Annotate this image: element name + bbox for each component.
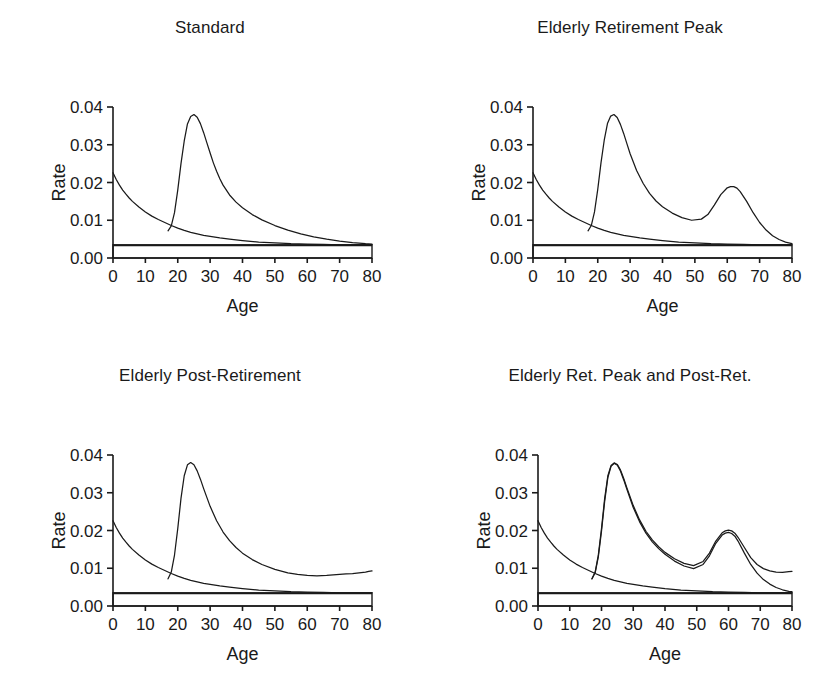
series-background-mortality-decay [113, 521, 372, 593]
x-tick-label: 60 [298, 267, 317, 286]
chart-panel-2: Elderly Retirement Peak0.000.010.020.030… [420, 18, 840, 348]
y-tick-label: 0.01 [490, 211, 523, 230]
y-axis-title: Rate [49, 163, 69, 201]
x-tick-label: 10 [136, 267, 155, 286]
chart-panel-3: Elderly Post-Retirement0.000.010.020.030… [0, 366, 420, 693]
y-tick-label: 0.00 [490, 249, 523, 268]
y-tick-label: 0.02 [70, 522, 103, 541]
panel-title: Elderly Retirement Peak [420, 18, 840, 38]
y-tick-label: 0.04 [70, 98, 103, 117]
panel-title: Elderly Post-Retirement [0, 366, 420, 386]
baseline-box [113, 593, 372, 606]
series-background-mortality-decay [538, 521, 792, 593]
x-tick-label: 40 [653, 267, 672, 286]
y-tick-label: 0.02 [495, 522, 528, 541]
x-tick-label: 20 [592, 615, 611, 634]
x-tick-label: 70 [330, 267, 349, 286]
series-background-mortality-decay [113, 173, 372, 245]
x-tick-label: 60 [718, 267, 737, 286]
y-tick-label: 0.00 [70, 597, 103, 616]
y-tick-label: 0.02 [490, 174, 523, 193]
y-tick-label: 0.04 [490, 98, 523, 117]
y-tick-label: 0.04 [495, 446, 528, 465]
y-axis-title: Rate [469, 163, 489, 201]
y-tick-label: 0.02 [70, 174, 103, 193]
x-tick-label: 50 [265, 267, 284, 286]
x-tick-label: 20 [588, 267, 607, 286]
x-tick-label: 80 [783, 267, 802, 286]
x-tick-label: 50 [265, 615, 284, 634]
series-young-adult-migration-peak [168, 115, 372, 244]
figure-panel-grid: Standard0.000.010.020.030.04010203040506… [0, 0, 840, 693]
y-tick-label: 0.01 [70, 211, 103, 230]
x-tick-label: 10 [560, 615, 579, 634]
baseline-box [538, 593, 792, 606]
x-tick-label: 30 [201, 615, 220, 634]
y-tick-label: 0.03 [70, 484, 103, 503]
x-tick-label: 30 [621, 267, 640, 286]
x-tick-label: 50 [685, 267, 704, 286]
panel-title: Standard [0, 18, 420, 38]
x-tick-label: 0 [108, 615, 117, 634]
plot-area: 0.000.010.020.030.0401020304050607080Age… [420, 366, 840, 693]
chart-panel-4: Elderly Ret. Peak and Post-Ret.0.000.010… [420, 366, 840, 693]
x-tick-label: 20 [168, 615, 187, 634]
plot-area: 0.000.010.020.030.0401020304050607080Age… [0, 366, 420, 693]
x-tick-label: 70 [751, 615, 770, 634]
y-tick-label: 0.04 [70, 446, 103, 465]
chart-panel-1: Standard0.000.010.020.030.04010203040506… [0, 18, 420, 348]
y-tick-label: 0.03 [70, 136, 103, 155]
y-tick-label: 0.01 [495, 559, 528, 578]
x-axis-title: Age [226, 644, 258, 664]
x-tick-label: 10 [556, 267, 575, 286]
x-tick-label: 70 [750, 267, 769, 286]
x-tick-label: 0 [108, 267, 117, 286]
y-tick-label: 0.00 [70, 249, 103, 268]
y-tick-label: 0.01 [70, 559, 103, 578]
panel-title: Elderly Ret. Peak and Post-Ret. [420, 366, 840, 386]
x-tick-label: 70 [330, 615, 349, 634]
x-tick-label: 40 [233, 615, 252, 634]
y-axis-title: Rate [49, 511, 69, 549]
x-tick-label: 0 [528, 267, 537, 286]
plot-area: 0.000.010.020.030.0401020304050607080Age… [420, 18, 840, 348]
x-tick-label: 80 [363, 615, 382, 634]
x-axis-title: Age [646, 296, 678, 316]
x-axis-title: Age [226, 296, 258, 316]
y-axis-title: Rate [474, 511, 494, 549]
series-young-adult-plus-retirement-peak [588, 115, 792, 244]
x-tick-label: 10 [136, 615, 155, 634]
x-tick-label: 30 [624, 615, 643, 634]
x-axis-title: Age [649, 644, 681, 664]
series-background-mortality-decay [533, 173, 792, 245]
x-tick-label: 60 [298, 615, 317, 634]
x-tick-label: 30 [201, 267, 220, 286]
x-tick-label: 20 [168, 267, 187, 286]
x-tick-label: 40 [656, 615, 675, 634]
series-retirement-peak-decaying [592, 463, 792, 591]
x-tick-label: 0 [533, 615, 542, 634]
x-tick-label: 80 [783, 615, 802, 634]
x-tick-label: 40 [233, 267, 252, 286]
x-tick-label: 80 [363, 267, 382, 286]
y-tick-label: 0.00 [495, 597, 528, 616]
baseline-box [533, 245, 792, 258]
series-young-adult-plus-post-retirement-rise [168, 463, 372, 579]
series-combined-peak-and-post-retirement [592, 463, 792, 579]
x-tick-label: 50 [687, 615, 706, 634]
y-tick-label: 0.03 [495, 484, 528, 503]
x-tick-label: 60 [719, 615, 738, 634]
plot-area: 0.000.010.020.030.0401020304050607080Age… [0, 18, 420, 348]
baseline-box [113, 245, 372, 258]
y-tick-label: 0.03 [490, 136, 523, 155]
